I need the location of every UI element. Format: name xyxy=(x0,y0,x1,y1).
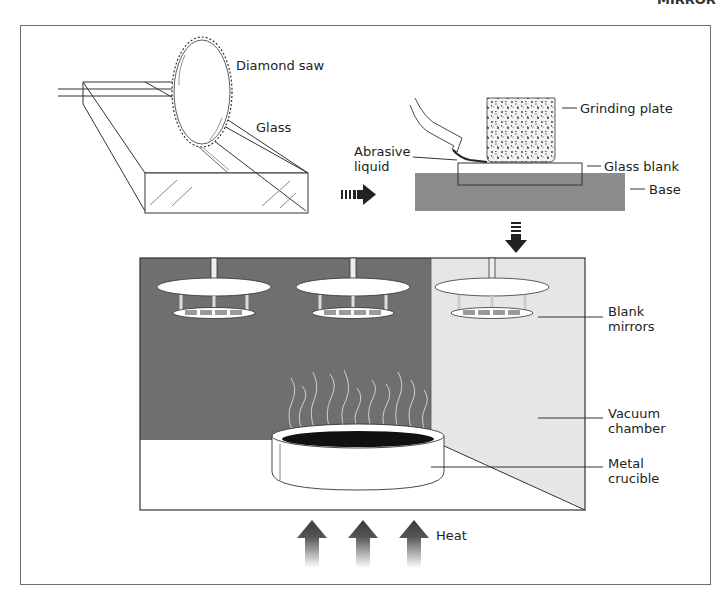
label-base: Base xyxy=(649,182,681,197)
abrasive-liquid-bottle xyxy=(410,98,487,162)
label-heat: Heat xyxy=(436,528,467,543)
label-glass: Glass xyxy=(256,120,291,135)
diamond-saw-blade xyxy=(172,37,232,147)
process-arrow-right-icon xyxy=(341,184,376,205)
glass-blank xyxy=(458,163,582,185)
heat-arrows xyxy=(297,520,429,568)
label-vacuum-chamber: Vacuum chamber xyxy=(608,406,666,436)
label-metal-crucible: Metal crucible xyxy=(608,456,659,486)
heat-arrow-icon xyxy=(399,520,429,568)
process-arrow-down-icon xyxy=(505,222,527,253)
label-glass-blank: Glass blank xyxy=(604,159,679,174)
label-diamond-saw: Diamond saw xyxy=(236,58,324,73)
label-abrasive-liquid: Abrasive liquid xyxy=(354,144,411,174)
heat-arrow-icon xyxy=(348,520,378,568)
heat-arrow-icon xyxy=(297,520,327,568)
metal-crucible xyxy=(272,424,444,490)
corner-title-fragment: MIRROR xyxy=(657,0,716,7)
grinding-plate xyxy=(487,98,555,162)
mirror-manufacturing-diagram: MIRROR Diamond saw Glass Grinding plate … xyxy=(0,0,726,606)
label-blank-mirrors: Blank mirrors xyxy=(608,304,655,334)
diagram-artwork xyxy=(0,0,726,606)
label-grinding-plate: Grinding plate xyxy=(580,101,673,116)
